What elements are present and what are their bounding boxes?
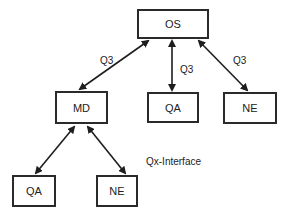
arrow-md-ne bbox=[88, 127, 125, 173]
edge-label-os-ne: Q3 bbox=[233, 55, 246, 66]
node-md-label: MD bbox=[73, 102, 90, 114]
node-ne-top-label: NE bbox=[242, 102, 257, 114]
interface-label: Qx-Interface bbox=[146, 156, 201, 167]
node-qa-top-label: QA bbox=[165, 102, 181, 114]
node-os-label: OS bbox=[165, 18, 181, 30]
node-os: OS bbox=[137, 9, 209, 39]
node-ne-bottom: NE bbox=[96, 175, 138, 207]
arrow-md-qa bbox=[36, 127, 74, 173]
edge-label-os-md: Q3 bbox=[100, 55, 113, 66]
edge-label-os-qa: Q3 bbox=[180, 64, 193, 75]
node-ne-bottom-label: NE bbox=[109, 185, 124, 197]
node-qa-bottom-label: QA bbox=[26, 185, 42, 197]
arrow-os-md bbox=[80, 41, 148, 89]
node-qa-top: QA bbox=[147, 92, 199, 123]
node-ne-top: NE bbox=[223, 92, 277, 124]
node-md: MD bbox=[55, 91, 108, 124]
node-qa-bottom: QA bbox=[12, 175, 56, 207]
